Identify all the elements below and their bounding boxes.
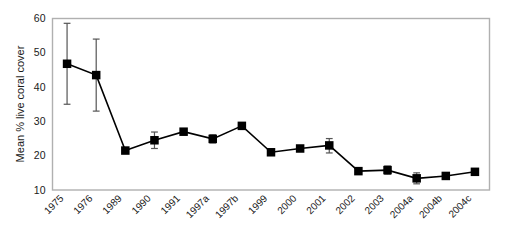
data-point-marker: [383, 166, 392, 175]
data-point-marker: [92, 71, 101, 80]
data-point-marker: [121, 146, 130, 155]
data-point-marker: [296, 144, 305, 153]
data-point-marker: [63, 60, 72, 69]
data-point-marker: [442, 172, 451, 181]
data-point-marker: [150, 136, 159, 145]
y-axis-title: Mean % live coral cover: [14, 45, 26, 162]
data-point-marker: [208, 135, 217, 144]
data-point-marker: [238, 122, 247, 131]
y-tick-label: 60: [34, 12, 46, 24]
coral-cover-line-chart: Mean % live coral cover 102030405060 197…: [0, 0, 513, 238]
data-point-marker: [471, 168, 480, 177]
y-axis-title-text: Mean % live coral cover: [14, 45, 26, 162]
data-point-marker: [179, 127, 188, 136]
y-tick-label: 20: [34, 149, 46, 161]
data-point-marker: [354, 167, 363, 176]
y-tick-label: 40: [34, 81, 46, 93]
data-point-marker: [267, 148, 276, 157]
y-tick-label: 10: [34, 184, 46, 196]
data-point-marker: [412, 174, 421, 183]
chart-figure: Mean % live coral cover 102030405060 197…: [0, 0, 513, 238]
data-point-marker: [325, 141, 334, 150]
y-tick-label: 50: [34, 46, 46, 58]
y-tick-label: 30: [34, 115, 46, 127]
